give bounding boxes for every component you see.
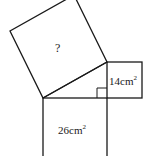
bottom-square-exp: 2 [82,123,86,131]
small-square-label: 14cm2 [109,75,137,87]
small-square-value: 14 [109,75,120,87]
small-square-unit: cm [120,75,133,87]
bottom-square-unit: cm [69,124,82,136]
bottom-square-value: 26 [58,124,69,136]
right-angle-marker [97,88,107,98]
hypotenuse-square-label: ? [55,42,60,54]
small-square-exp: 2 [133,74,137,82]
bottom-square-label: 26cm2 [58,124,86,136]
